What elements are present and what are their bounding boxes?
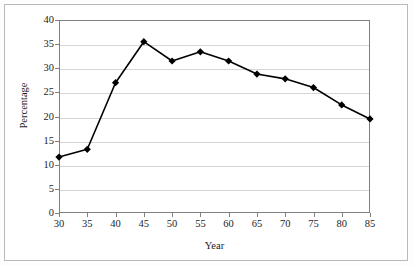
x-tick-label-40: 40 xyxy=(103,219,129,230)
x-tick-70 xyxy=(285,213,286,217)
x-tick-85 xyxy=(370,213,371,217)
x-tick-label-45: 45 xyxy=(131,219,157,230)
x-tick-80 xyxy=(342,213,343,217)
y-tick-25 xyxy=(55,92,59,93)
data-point-70 xyxy=(282,75,289,82)
y-tick-10 xyxy=(55,165,59,166)
series-percentage xyxy=(59,20,370,213)
x-tick-label-70: 70 xyxy=(272,219,298,230)
x-tick-65 xyxy=(257,213,258,217)
y-tick-40 xyxy=(55,20,59,21)
x-tick-label-80: 80 xyxy=(329,219,355,230)
data-point-65 xyxy=(253,70,260,77)
y-axis-tick-labels: 0510152025303540 xyxy=(28,20,54,213)
y-tick-35 xyxy=(55,44,59,45)
data-point-35 xyxy=(84,146,91,153)
y-tick-label-10: 10 xyxy=(30,160,54,171)
y-tick-label-5: 5 xyxy=(30,184,54,195)
y-tick-label-25: 25 xyxy=(30,87,54,98)
y-tick-20 xyxy=(55,117,59,118)
y-tick-label-30: 30 xyxy=(30,63,54,74)
x-tick-label-65: 65 xyxy=(244,219,270,230)
data-point-80 xyxy=(338,101,345,108)
y-tick-label-0: 0 xyxy=(30,208,54,219)
data-point-60 xyxy=(225,57,232,64)
x-tick-30 xyxy=(59,213,60,217)
x-tick-45 xyxy=(144,213,145,217)
data-point-75 xyxy=(310,84,317,91)
y-tick-label-20: 20 xyxy=(30,112,54,123)
x-tick-40 xyxy=(116,213,117,217)
data-point-30 xyxy=(55,153,62,160)
y-tick-label-15: 15 xyxy=(30,136,54,147)
series-line xyxy=(59,42,370,157)
x-tick-label-60: 60 xyxy=(216,219,242,230)
y-tick-15 xyxy=(55,141,59,142)
figure-container: 0510152025303540 30354045505560657075808… xyxy=(0,0,413,266)
x-tick-label-35: 35 xyxy=(74,219,100,230)
x-tick-label-50: 50 xyxy=(159,219,185,230)
y-tick-30 xyxy=(55,68,59,69)
line-chart: 0510152025303540 30354045505560657075808… xyxy=(0,0,413,266)
x-tick-60 xyxy=(229,213,230,217)
y-tick-label-40: 40 xyxy=(30,15,54,26)
y-tick-label-35: 35 xyxy=(30,39,54,50)
x-tick-55 xyxy=(200,213,201,217)
x-tick-50 xyxy=(172,213,173,217)
x-tick-label-30: 30 xyxy=(46,219,72,230)
x-tick-75 xyxy=(314,213,315,217)
data-point-85 xyxy=(366,115,373,122)
x-axis-title: Year xyxy=(59,240,370,251)
x-tick-label-75: 75 xyxy=(301,219,327,230)
x-tick-35 xyxy=(87,213,88,217)
y-tick-5 xyxy=(55,189,59,190)
x-axis-tick-labels: 303540455055606570758085 xyxy=(59,219,370,233)
data-point-55 xyxy=(197,48,204,55)
y-axis-title: Percentage xyxy=(18,61,29,151)
x-tick-label-55: 55 xyxy=(187,219,213,230)
x-tick-label-85: 85 xyxy=(357,219,383,230)
